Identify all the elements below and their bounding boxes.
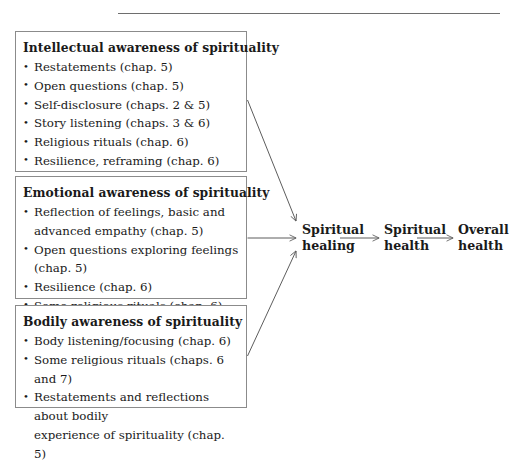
box-list-bodily: Body listening/focusing (chap. 6) Some r… bbox=[23, 332, 240, 464]
flow-node-spiritual-health: Spiritual health bbox=[384, 222, 448, 253]
list-item: Resilience, reframing (chap. 6) bbox=[23, 152, 240, 171]
box-list-emotional: Reflection of feelings, basic and advanc… bbox=[23, 203, 240, 316]
flow-node-spiritual-healing: Spiritual healing bbox=[302, 222, 374, 253]
top-horizontal-rule bbox=[118, 13, 500, 14]
list-item: Religious rituals (chap. 6) bbox=[23, 133, 240, 152]
list-item: Resilience (chap. 6) bbox=[23, 278, 240, 297]
list-item: Self-disclosure (chaps. 2 & 5) bbox=[23, 96, 240, 115]
flow-node-overall-health: Overall health bbox=[458, 222, 506, 253]
awareness-box-emotional: Emotional awareness of spirituality Refl… bbox=[15, 176, 247, 299]
list-item: Story listening (chaps. 3 & 6) bbox=[23, 114, 240, 133]
awareness-box-intellectual: Intellectual awareness of spirituality R… bbox=[15, 31, 247, 172]
connector-bodily-to-spiritual-healing bbox=[248, 251, 297, 356]
list-item: Open questions (chap. 5) bbox=[23, 77, 240, 96]
box-heading-emotional: Emotional awareness of spirituality bbox=[23, 184, 240, 201]
list-item: Restatements (chap. 5) bbox=[23, 58, 240, 77]
list-item: Reflection of feelings, basic and advanc… bbox=[23, 203, 240, 241]
box-list-intellectual: Restatements (chap. 5) Open questions (c… bbox=[23, 58, 240, 171]
list-item: Some religious rituals (chaps. 6 and 7) bbox=[23, 351, 240, 389]
box-heading-bodily: Bodily awareness of spirituality bbox=[23, 313, 240, 330]
awareness-box-bodily: Bodily awareness of spirituality Body li… bbox=[15, 305, 247, 408]
connector-intellectual-to-spiritual-healing bbox=[248, 100, 297, 221]
list-item: Body listening/focusing (chap. 6) bbox=[23, 332, 240, 351]
list-item: Open questions exploring feelings (chap.… bbox=[23, 241, 240, 279]
box-heading-intellectual: Intellectual awareness of spirituality bbox=[23, 39, 240, 56]
list-item: Restatements and reflections about bodil… bbox=[23, 388, 240, 463]
